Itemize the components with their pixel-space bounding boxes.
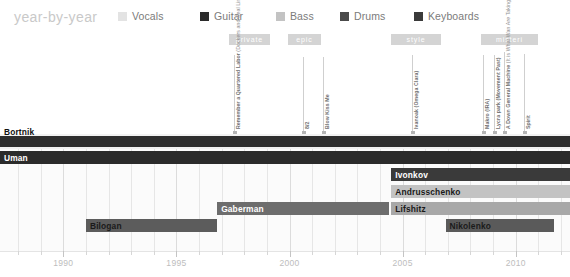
timeline-bar-lifshitz[interactable]: Lifshitz bbox=[391, 202, 570, 215]
axis-tick bbox=[222, 251, 223, 255]
timeline-bar-nikolenko[interactable]: Nikolenko bbox=[446, 219, 555, 232]
annotation-event-title: Remember a Quartered Labor bbox=[235, 53, 241, 129]
bar-label: Uman bbox=[0, 153, 28, 163]
annotation-event-label: Blow Kiss Me bbox=[325, 94, 331, 129]
annotation-event-label: Makro (IRA) bbox=[485, 99, 491, 129]
annotation-event-subtitle: (It is What Wan Are Taking Away) bbox=[505, 0, 511, 65]
legend-swatch-icon bbox=[340, 12, 349, 21]
axis-tick bbox=[516, 251, 517, 257]
axis-tick bbox=[109, 251, 110, 255]
axis-tick bbox=[380, 251, 381, 255]
axis-tick bbox=[538, 251, 539, 255]
axis-tick bbox=[244, 251, 245, 255]
annotation-event-label: 8/2 bbox=[305, 121, 311, 129]
annotation-event-title: Lycra park (Movement Past) bbox=[495, 57, 501, 129]
axis-tick bbox=[176, 251, 177, 257]
timeline-bar-bortnik[interactable] bbox=[0, 136, 570, 147]
axis-tick-label: 2005 bbox=[393, 258, 413, 268]
axis-tick-label: 2010 bbox=[506, 258, 526, 268]
legend-swatch-icon bbox=[200, 12, 209, 21]
annotation-event-title: Makro (IRA) bbox=[484, 99, 490, 129]
legend-item-drums[interactable]: Drums bbox=[340, 9, 385, 23]
timeline-bar-uman[interactable]: Uman bbox=[0, 151, 570, 164]
annotation-event-label: Remember a Quartered Labor (Dockers and … bbox=[236, 0, 242, 129]
timeline-bar-ivonkov[interactable]: Ivonkov bbox=[391, 168, 570, 181]
annotation-event-title: Spirit bbox=[525, 115, 531, 129]
legend-item-bass[interactable]: Bass bbox=[276, 9, 314, 23]
annotation-event-title: Blow Kiss Me bbox=[324, 94, 330, 129]
plot-background: BortnikUmanIvonkovAndrusschenkoLifshitzG… bbox=[0, 134, 570, 251]
timeline-bar-gaberman[interactable]: Gaberman bbox=[217, 202, 389, 215]
annotation-event-title: Ivanoak (Omega Clara) bbox=[413, 71, 419, 129]
axis-tick bbox=[290, 251, 291, 257]
legend-label: Bass bbox=[290, 10, 314, 22]
bar-label: Bilogan bbox=[86, 221, 122, 231]
axis-tick bbox=[312, 251, 313, 255]
annotation-event-label: A Down General Machine (It is What Wan A… bbox=[506, 0, 512, 129]
annotation-group-header-style: style bbox=[391, 34, 441, 45]
chart-header: year-by-year VocalsGuitarBassDrumsKeyboa… bbox=[0, 0, 570, 30]
timeline-bar-bilogan[interactable]: Bilogan bbox=[86, 219, 217, 232]
annotation-event-title: A Down General Machine bbox=[505, 65, 511, 129]
legend-swatch-icon bbox=[118, 12, 127, 21]
annotation-event-label: Ivanoak (Omega Clara) bbox=[414, 71, 420, 129]
axis-tick bbox=[41, 251, 42, 255]
axis-tick bbox=[470, 251, 471, 255]
axis-tick bbox=[199, 251, 200, 255]
year-by-year-timeline-chart: year-by-year VocalsGuitarBassDrumsKeyboa… bbox=[0, 0, 570, 277]
legend-label: Drums bbox=[354, 10, 385, 22]
axis-tick-label: 1990 bbox=[53, 258, 73, 268]
legend-label: Keyboards bbox=[428, 10, 479, 22]
axis-tick-label: 2000 bbox=[279, 258, 299, 268]
bar-label: Nikolenko bbox=[446, 221, 491, 231]
legend-item-vocals[interactable]: Vocals bbox=[118, 9, 164, 23]
annotation-band: privateepicstylemisteriRemember a Quarte… bbox=[0, 30, 570, 134]
axis-tick bbox=[493, 251, 494, 255]
legend-swatch-icon bbox=[414, 12, 423, 21]
axis-tick bbox=[18, 251, 19, 255]
axis-tick bbox=[86, 251, 87, 255]
axis-tick bbox=[403, 251, 404, 257]
legend-item-keyboards[interactable]: Keyboards bbox=[414, 9, 479, 23]
annotation-event-label: Spirit bbox=[526, 115, 532, 129]
bar-label: Bortnik bbox=[4, 127, 34, 137]
axis-tick bbox=[131, 251, 132, 255]
bar-label: Gaberman bbox=[217, 204, 264, 214]
axis-tick bbox=[425, 251, 426, 255]
legend-label: Vocals bbox=[132, 10, 164, 22]
axis-tick bbox=[335, 251, 336, 255]
legend-swatch-icon bbox=[276, 12, 285, 21]
axis-tick bbox=[357, 251, 358, 255]
axis-tick bbox=[561, 251, 562, 255]
x-axis: 19901995200020052010 bbox=[0, 251, 570, 277]
bar-label: Ivonkov bbox=[391, 170, 428, 180]
annotation-event-title: 8/2 bbox=[304, 121, 310, 129]
annotation-event-label: Lycra park (Movement Past) bbox=[496, 57, 502, 129]
bar-label: Andrusschenko bbox=[391, 187, 460, 197]
axis-tick bbox=[267, 251, 268, 255]
axis-tick bbox=[448, 251, 449, 255]
page-title: year-by-year bbox=[14, 9, 97, 25]
chart-plot-area: BortnikUmanIvonkovAndrusschenkoLifshitzG… bbox=[0, 134, 570, 251]
axis-tick-label: 1995 bbox=[166, 258, 186, 268]
bar-label: Lifshitz bbox=[391, 204, 426, 214]
axis-tick bbox=[63, 251, 64, 257]
axis-tick bbox=[154, 251, 155, 255]
timeline-bar-andrusschenko[interactable]: Andrusschenko bbox=[391, 185, 570, 198]
annotation-group-header-epic: epic bbox=[288, 34, 321, 45]
annotation-event-subtitle: (Dockers and Seal Lines) bbox=[235, 0, 241, 53]
